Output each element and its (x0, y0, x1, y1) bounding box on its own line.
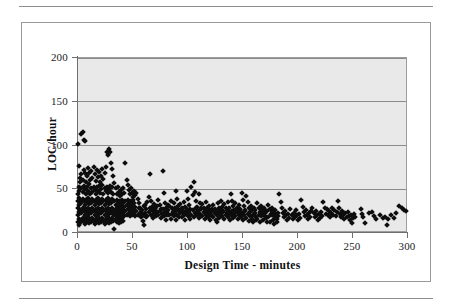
y-axis-line (77, 56, 78, 233)
gridline-200 (78, 58, 406, 59)
y-axis-title: LOC/hour (46, 84, 58, 204)
gridline-150 (78, 101, 406, 102)
x-tick-label-100: 100 (167, 240, 207, 252)
x-tick-0 (77, 233, 78, 238)
x-tick-100 (187, 233, 188, 238)
y-tick-label-200: 200 (34, 51, 68, 63)
x-tick-label-200: 200 (277, 240, 317, 252)
y-tick-50 (72, 188, 77, 189)
plot-area (77, 57, 407, 232)
x-tick-label-150: 150 (222, 240, 262, 252)
scatter-chart: 200 150 100 50 0 0 50 100 150 200 250 30… (0, 0, 451, 307)
gridline-100 (78, 145, 406, 146)
x-tick-150 (242, 233, 243, 238)
y-tick-100 (72, 145, 77, 146)
x-tick-50 (132, 233, 133, 238)
x-tick-label-50: 50 (112, 240, 152, 252)
y-tick-150 (72, 101, 77, 102)
x-tick-label-250: 250 (332, 240, 372, 252)
y-tick-label-0: 0 (34, 226, 68, 238)
x-axis-title: Design Time - minutes (77, 259, 408, 271)
page-rule-bottom (19, 298, 433, 299)
gridline-50 (78, 189, 406, 190)
x-tick-label-300: 300 (387, 240, 427, 252)
y-tick-200 (72, 57, 77, 58)
x-tick-label-0: 0 (57, 240, 97, 252)
x-tick-200 (297, 233, 298, 238)
x-tick-300 (407, 233, 408, 238)
x-tick-250 (352, 233, 353, 238)
